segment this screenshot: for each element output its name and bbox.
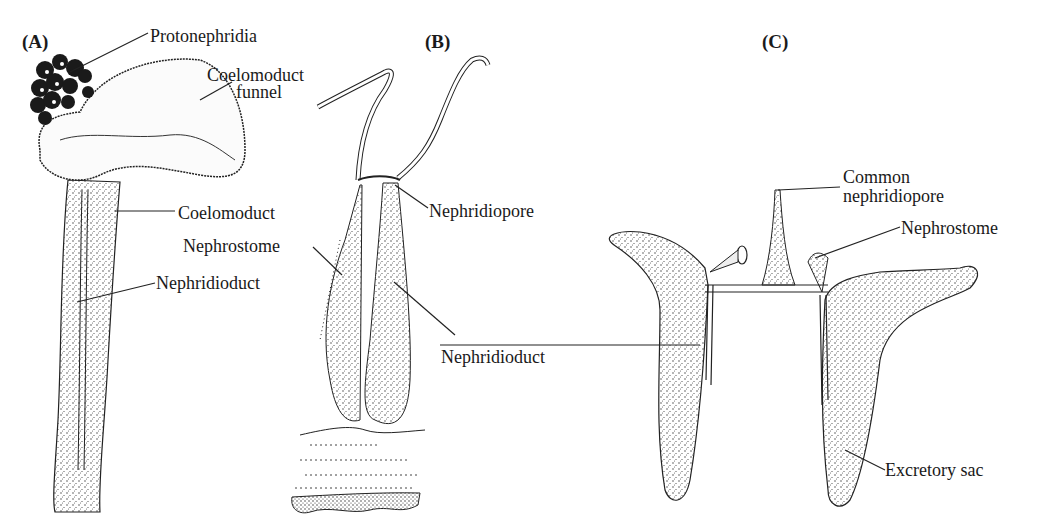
- panel-label-b: (B): [425, 31, 450, 53]
- panel-label-a: (A): [22, 31, 48, 53]
- label-common-nephridiopore-line2: nephridiopore: [843, 186, 944, 206]
- label-nephridioduct-b: Nephridioduct: [441, 347, 545, 367]
- label-protonephridia: Protonephridia: [150, 26, 257, 46]
- label-coelomoduct-funnel-line2: funnel: [236, 82, 282, 102]
- label-nephridiopore: Nephridiopore: [429, 201, 534, 221]
- label-nephrostome-c: Nephrostome: [901, 218, 998, 238]
- label-common-nephridiopore-line1: Common: [843, 167, 910, 187]
- panel-b-drawing: [292, 58, 488, 513]
- panel-label-c: (C): [762, 31, 788, 53]
- figure-illustration: [0, 0, 1037, 529]
- label-nephridioduct-a: Nephridioduct: [156, 273, 260, 293]
- label-nephrostome-b: Nephrostome: [183, 236, 280, 256]
- label-excretory-sac: Excretory sac: [885, 460, 983, 480]
- label-coelomoduct: Coelomoduct: [178, 203, 275, 223]
